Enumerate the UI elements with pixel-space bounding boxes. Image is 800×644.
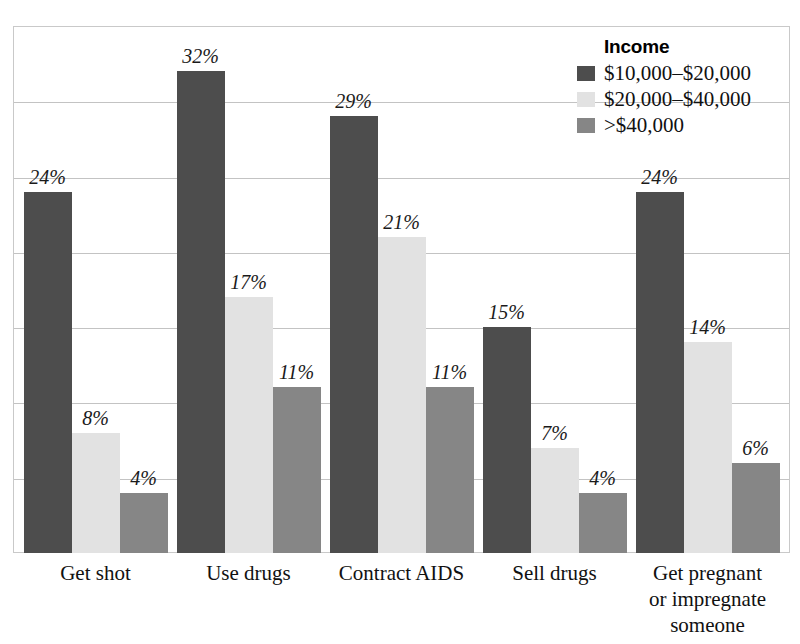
category-label: Contract AIDS [327, 560, 477, 638]
bar-group: 24%8%4% [24, 26, 168, 553]
category-label-line: Contract AIDS [327, 560, 477, 586]
bar[interactable] [636, 192, 684, 553]
bar-chart: 24%8%4%32%17%11%29%21%11%15%7%4%24%14%6%… [0, 0, 800, 644]
bar-group: 32%17%11% [177, 26, 321, 553]
bar-value-label: 4% [99, 467, 189, 490]
legend-entries: $10,000–$20,000$20,000–$40,000>$40,000 [577, 60, 792, 138]
bar[interactable] [732, 463, 780, 553]
category-label-line: Use drugs [174, 560, 324, 586]
bar[interactable] [273, 387, 321, 553]
bar-slot: 29% [330, 26, 378, 553]
category-label-line: Get shot [21, 560, 171, 586]
legend-title: Income [604, 36, 792, 58]
legend-swatch [577, 66, 595, 81]
bar-slot: 4% [120, 26, 168, 553]
legend-label: $20,000–$40,000 [604, 87, 751, 112]
bar[interactable] [177, 71, 225, 553]
legend-entry[interactable]: >$40,000 [577, 112, 792, 138]
bar-slot: 21% [378, 26, 426, 553]
category-label-line: or impregnate [633, 586, 783, 612]
bar[interactable] [426, 387, 474, 553]
legend-swatch [577, 92, 595, 107]
category-label-line: Sell drugs [480, 560, 630, 586]
bar[interactable] [120, 493, 168, 553]
legend-entry[interactable]: $20,000–$40,000 [577, 86, 792, 112]
category-label-line: Get pregnant [633, 560, 783, 586]
legend-label: >$40,000 [604, 113, 684, 138]
bar[interactable] [225, 297, 273, 553]
category-label: Get shot [21, 560, 171, 638]
bar-group: 29%21%11% [330, 26, 474, 553]
bar[interactable] [579, 493, 627, 553]
bar[interactable] [72, 433, 120, 553]
bar[interactable] [330, 116, 378, 553]
legend-label: $10,000–$20,000 [604, 61, 751, 86]
bar[interactable] [378, 237, 426, 553]
category-label: Sell drugs [480, 560, 630, 638]
legend-entry[interactable]: $10,000–$20,000 [577, 60, 792, 86]
legend: Income $10,000–$20,000$20,000–$40,000>$4… [577, 36, 792, 138]
bar-value-label: 6% [711, 437, 800, 460]
category-label: Use drugs [174, 560, 324, 638]
bar-slot: 17% [225, 26, 273, 553]
bar-slot: 15% [483, 26, 531, 553]
bar-value-label: 11% [405, 361, 495, 384]
bar[interactable] [531, 448, 579, 553]
bar-value-label: 11% [252, 361, 342, 384]
category-label: Get pregnantor impregnatesomeone [633, 560, 783, 638]
category-axis-labels: Get shotUse drugsContract AIDSSell drugs… [13, 560, 790, 638]
bar-slot: 24% [24, 26, 72, 553]
bar[interactable] [24, 192, 72, 553]
bar-value-label: 4% [558, 467, 648, 490]
legend-swatch [577, 118, 595, 133]
category-label-line: someone [633, 612, 783, 638]
bar-slot: 11% [426, 26, 474, 553]
